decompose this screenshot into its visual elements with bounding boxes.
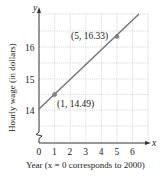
y-tick-label: 14 [25, 106, 35, 116]
annotation-label: (5, 16.33) [71, 31, 108, 42]
x-axis-symbol: x [151, 138, 157, 148]
x-tick-label: 0 [37, 147, 42, 157]
x-axis-title: Year (x = 0 corresponds to 2000) [26, 160, 145, 170]
x-tick-label: 3 [83, 147, 88, 157]
x-tick-label: 2 [68, 147, 73, 157]
y-tick-label: 15 [25, 75, 35, 85]
x-tick-label: 4 [99, 147, 104, 157]
data-point [115, 35, 119, 39]
x-tick-label: 5 [114, 147, 119, 157]
y-axis-title: Hourly wage (in dollars) [7, 43, 17, 132]
x-axis [39, 141, 151, 145]
annotation-label: (1, 14.49) [57, 99, 94, 110]
axis-break-icon [36, 132, 42, 143]
chart: (1, 14.49) (5, 16.33) 14 15 16 0 1 2 3 4… [0, 0, 168, 179]
y-axis-symbol: y [32, 3, 38, 13]
y-axis [36, 7, 42, 143]
y-axis-arrow-icon [37, 7, 41, 13]
data-point [53, 93, 57, 97]
x-tick-label: 6 [130, 147, 135, 157]
x-tick-label: 1 [52, 147, 57, 157]
y-tick-label: 16 [25, 43, 35, 53]
